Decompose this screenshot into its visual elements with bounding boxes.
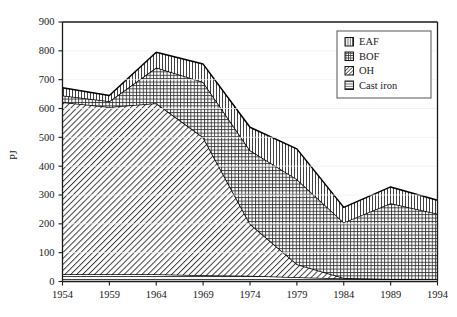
x-tick-label: 1969 (193, 289, 214, 300)
x-tick-label: 1954 (52, 289, 74, 300)
y-tick-label: 300 (39, 189, 55, 200)
y-tick-label: 800 (39, 45, 55, 56)
y-tick-label: 200 (39, 218, 55, 229)
x-tick-label: 1974 (240, 289, 262, 300)
x-tick-label: 1984 (333, 289, 355, 300)
legend-item-cast-iron[interactable]: Cast iron (345, 80, 398, 91)
legend-item-oh[interactable]: OH (345, 65, 375, 76)
stacked-area-chart: 0100200300400500600700800900 19541959196… (0, 0, 457, 317)
x-tick-label: 1964 (146, 289, 168, 300)
y-tick-label: 500 (39, 132, 55, 143)
legend-item-eaf[interactable]: EAF (345, 36, 379, 47)
x-tick-label: 1979 (286, 289, 307, 300)
y-tick-label: 400 (39, 161, 55, 172)
y-tick-label: 700 (39, 74, 55, 85)
legend-label: Cast iron (359, 80, 398, 91)
y-tick-label: 900 (39, 16, 55, 27)
legend-label: OH (359, 65, 375, 76)
legend-label: BOF (359, 51, 380, 62)
chart-canvas: 0100200300400500600700800900 19541959196… (0, 0, 457, 317)
y-axis-title: PJ (8, 150, 19, 160)
legend-swatch-horizontal-lines-swatch (345, 81, 354, 90)
chart-legend[interactable]: EAFBOFOHCast iron (337, 31, 431, 98)
x-tick-label: 1994 (427, 289, 449, 300)
x-tick-label: 1959 (99, 289, 120, 300)
legend-swatch-cross-hatch-swatch (345, 52, 354, 61)
legend-swatch-diagonal-hatch-swatch (345, 67, 354, 76)
y-tick-label: 600 (39, 103, 55, 114)
legend-item-bof[interactable]: BOF (345, 51, 380, 62)
y-tick-label: 0 (49, 276, 54, 287)
y-tick-label: 100 (39, 247, 55, 258)
legend-swatch-vertical-lines-swatch (345, 38, 354, 47)
legend-label: EAF (359, 36, 379, 47)
x-tick-label: 1989 (380, 289, 401, 300)
